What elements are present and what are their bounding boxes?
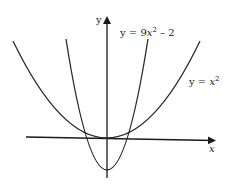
x-axis	[26, 137, 214, 141]
parabola-diagram: y x y = 9x2 – 2 y = x2	[0, 0, 230, 187]
y-axis-label: y	[95, 14, 102, 25]
wide-parabola-label: y = x2	[188, 75, 220, 87]
narrow-parabola-label: y = 9x2 – 2	[119, 26, 175, 38]
x-axis-label: x	[209, 143, 215, 154]
